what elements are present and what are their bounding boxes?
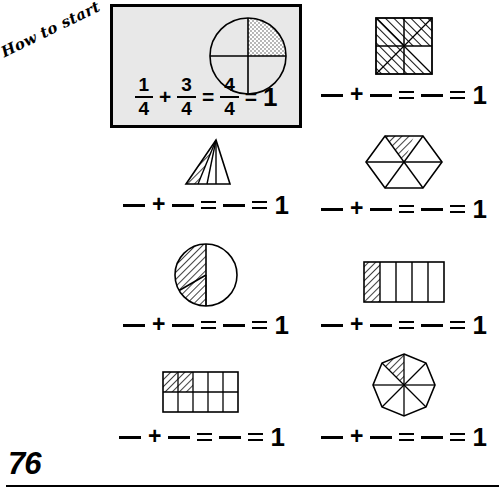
- page-number: 76: [8, 446, 40, 482]
- example-fraction-2-denominator: 4: [177, 99, 196, 119]
- answer-equals-2: [252, 319, 267, 332]
- answer-blank-fraction-2[interactable]: [370, 208, 392, 211]
- answer-blank-sum[interactable]: [219, 436, 241, 439]
- answer-plus-operator: +: [148, 425, 161, 448]
- answer-result: 1: [472, 312, 486, 338]
- answer-blank-sum[interactable]: [223, 204, 245, 207]
- answer-blank-sum[interactable]: [421, 436, 443, 439]
- answer-equals-1: [399, 89, 414, 102]
- example-equals-2: =: [244, 85, 258, 109]
- answer-blank-fraction-2[interactable]: [172, 324, 194, 327]
- answer-blank-fraction-1[interactable]: [119, 436, 141, 439]
- answer-blank-sum[interactable]: [421, 324, 443, 327]
- answer-blank-fraction-1[interactable]: [321, 324, 343, 327]
- answer-result: 1: [274, 192, 288, 218]
- problem-5: + 1: [110, 358, 294, 450]
- answer-blank-fraction-1[interactable]: [123, 324, 145, 327]
- problem-2: + 1: [310, 4, 498, 108]
- example-result: 1: [263, 84, 277, 110]
- example-fraction-2-numerator: 3: [177, 75, 196, 95]
- answer-blank-fraction-2[interactable]: [168, 436, 190, 439]
- answer-plus-operator: +: [152, 193, 165, 216]
- problem-3-answer-line[interactable]: + 1: [118, 312, 294, 338]
- answer-result: 1: [472, 196, 486, 222]
- problem-4: + 1: [310, 130, 498, 222]
- answer-equals-1: [197, 431, 212, 444]
- answer-result: 1: [472, 424, 486, 450]
- example-equation: 1 4 + 3 4 = 4 4 = 1: [113, 75, 299, 119]
- answer-equals-1: [201, 199, 216, 212]
- example-fraction-2: 3 4: [177, 75, 196, 119]
- problem-1: + 1: [118, 132, 294, 218]
- answer-blank-fraction-1[interactable]: [321, 94, 343, 97]
- answer-result: 1: [270, 424, 284, 450]
- answer-equals-2: [248, 431, 263, 444]
- problem-7-answer-line[interactable]: + 1: [310, 424, 498, 450]
- problem-7-figure-octagon-eighths: [310, 352, 498, 420]
- answer-equals-2: [450, 203, 465, 216]
- answer-plus-operator: +: [350, 83, 363, 106]
- example-fraction-1-numerator: 1: [135, 75, 154, 95]
- answer-blank-fraction-1[interactable]: [123, 204, 145, 207]
- answer-blank-sum[interactable]: [421, 208, 443, 211]
- example-plus-operator: +: [158, 85, 172, 109]
- answer-equals-2: [450, 431, 465, 444]
- answer-equals-2: [252, 199, 267, 212]
- example-fraction-sum-numerator: 4: [220, 75, 239, 95]
- answer-equals-1: [201, 319, 216, 332]
- problem-2-answer-line[interactable]: + 1: [310, 82, 498, 108]
- answer-blank-fraction-1[interactable]: [321, 436, 343, 439]
- problem-1-figure-triangle-quarters: [118, 132, 294, 188]
- answer-equals-2: [450, 89, 465, 102]
- answer-plus-operator: +: [350, 425, 363, 448]
- answer-blank-fraction-1[interactable]: [321, 208, 343, 211]
- problem-3: + 1: [118, 240, 294, 338]
- answer-result: 1: [274, 312, 288, 338]
- answer-blank-fraction-2[interactable]: [370, 436, 392, 439]
- problem-6-figure-rectangle-fifths: [310, 240, 498, 308]
- answer-blank-sum[interactable]: [421, 94, 443, 97]
- problem-2-figure-square-eighths: [310, 4, 498, 78]
- problem-6: + 1: [310, 240, 498, 338]
- answer-equals-1: [399, 319, 414, 332]
- problem-4-answer-line[interactable]: + 1: [310, 196, 498, 222]
- example-box: 1 4 + 3 4 = 4 4 = 1: [110, 4, 302, 128]
- problem-1-answer-line[interactable]: + 1: [118, 192, 294, 218]
- problem-5-answer-line[interactable]: + 1: [110, 424, 294, 450]
- problem-6-answer-line[interactable]: + 1: [310, 312, 498, 338]
- problem-5-figure-rectangle-tenths: [110, 358, 294, 420]
- answer-equals-2: [450, 319, 465, 332]
- example-fraction-1-denominator: 4: [135, 99, 154, 119]
- problem-4-figure-hexagon-sixths: [310, 130, 498, 192]
- answer-blank-fraction-2[interactable]: [370, 94, 392, 97]
- example-equals-1: =: [201, 85, 215, 109]
- answer-blank-fraction-2[interactable]: [370, 324, 392, 327]
- problem-7: + 1: [310, 352, 498, 450]
- example-fraction-sum-denominator: 4: [220, 99, 239, 119]
- example-fraction-sum: 4 4: [220, 75, 239, 119]
- worksheet-page: How to start 1 4 + 3 4 =: [0, 0, 501, 496]
- answer-plus-operator: +: [350, 197, 363, 220]
- example-fraction-1: 1 4: [135, 75, 154, 119]
- answer-plus-operator: +: [152, 313, 165, 336]
- how-to-start-label: How to start: [0, 0, 114, 61]
- answer-equals-1: [399, 431, 414, 444]
- answer-result: 1: [472, 82, 486, 108]
- answer-plus-operator: +: [350, 313, 363, 336]
- answer-equals-1: [399, 203, 414, 216]
- answer-blank-sum[interactable]: [223, 324, 245, 327]
- answer-blank-fraction-2[interactable]: [172, 204, 194, 207]
- footer-divider: [6, 485, 499, 488]
- problem-3-figure-circle-thirds: [118, 240, 294, 308]
